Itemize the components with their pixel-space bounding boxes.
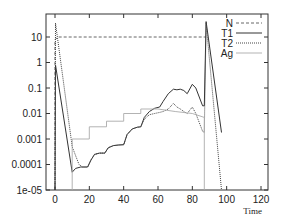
x-tick-label: 40 (118, 194, 130, 205)
y-tick-label: 0.01 (23, 108, 43, 119)
y-tick-label: 0.1 (28, 83, 42, 94)
x-tick-label: 100 (218, 194, 235, 205)
x-tick-label: 20 (84, 194, 96, 205)
x-axis-label: Time (243, 206, 262, 216)
x-tick-label: 80 (187, 194, 199, 205)
plot-frame (46, 14, 268, 190)
y-tick-label: 0.001 (17, 134, 42, 145)
y-tick-label: 10 (31, 32, 43, 43)
y-tick-label: 0.0001 (11, 159, 42, 170)
y-tick-label: 1e-05 (16, 185, 42, 196)
series-line-ag (72, 109, 204, 190)
y-tick-label: 1 (36, 57, 42, 68)
legend-label: Ag (221, 48, 233, 59)
x-tick-label: 60 (152, 194, 164, 205)
x-tick-label: 120 (253, 194, 270, 205)
x-tick-label: 0 (52, 194, 58, 205)
series-line-t1 (55, 22, 222, 190)
chart: 1e-050.00010.0010.010.1110 0204060801001… (0, 0, 283, 220)
series-line-t2 (55, 23, 222, 190)
